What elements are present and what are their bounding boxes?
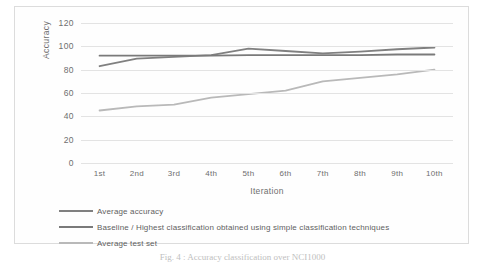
x-axis-tick-label: 10th — [426, 169, 443, 178]
y-axis-tick-label: 60 — [64, 88, 74, 98]
y-axis-tick-label: 0 — [69, 158, 74, 168]
legend-item[interactable]: Average test set — [59, 235, 459, 251]
gridline — [81, 140, 453, 141]
series-line — [100, 70, 435, 111]
y-axis-tick-label: 80 — [64, 65, 74, 75]
legend-item-label: Average test set — [97, 239, 157, 248]
chart-legend: Average accuracyBaseline / Highest class… — [59, 203, 459, 251]
x-axis-tick-label: 4th — [205, 169, 217, 178]
x-axis-tick-label: 1st — [94, 169, 106, 178]
series-line — [100, 55, 435, 56]
plot-area: 0204060801001201st2nd3rd4th5th6th7th8th9… — [81, 23, 453, 163]
x-axis-tick-label: 2nd — [130, 169, 144, 178]
x-axis-tick-label: 8th — [354, 169, 366, 178]
legend-item-label: Average accuracy — [97, 207, 163, 216]
gridline — [81, 93, 453, 94]
gridline — [81, 70, 453, 71]
legend-item[interactable]: Baseline / Highest classification obtain… — [59, 219, 459, 235]
legend-line-swatch — [59, 210, 93, 213]
legend-item[interactable]: Average accuracy — [59, 203, 459, 219]
x-axis-title: Iteration — [81, 186, 453, 196]
gridline — [81, 163, 453, 164]
y-axis-title: Accuracy — [41, 21, 51, 59]
series-line — [100, 48, 435, 67]
x-axis-tick-label: 5th — [242, 169, 254, 178]
gridline — [81, 46, 453, 47]
y-axis-tick-label: 20 — [64, 135, 74, 145]
legend-line-swatch — [59, 242, 93, 245]
gridline — [81, 116, 453, 117]
legend-line-swatch — [59, 226, 93, 229]
y-axis-tick-label: 120 — [59, 18, 74, 28]
gridline — [81, 23, 453, 24]
legend-item-label: Baseline / Highest classification obtain… — [97, 223, 389, 232]
x-axis-tick-label: 7th — [317, 169, 329, 178]
x-axis-tick-label: 3rd — [168, 169, 180, 178]
figure-frame: Accuracy 0204060801001201st2nd3rd4th5th6… — [14, 6, 469, 244]
x-axis-tick-label: 9th — [391, 169, 403, 178]
x-axis-tick-label: 6th — [280, 169, 292, 178]
figure-caption: Fig. 4 : Accuracy classification over NC… — [0, 252, 485, 262]
y-axis-tick-label: 100 — [59, 41, 74, 51]
y-axis-tick-label: 40 — [64, 111, 74, 121]
